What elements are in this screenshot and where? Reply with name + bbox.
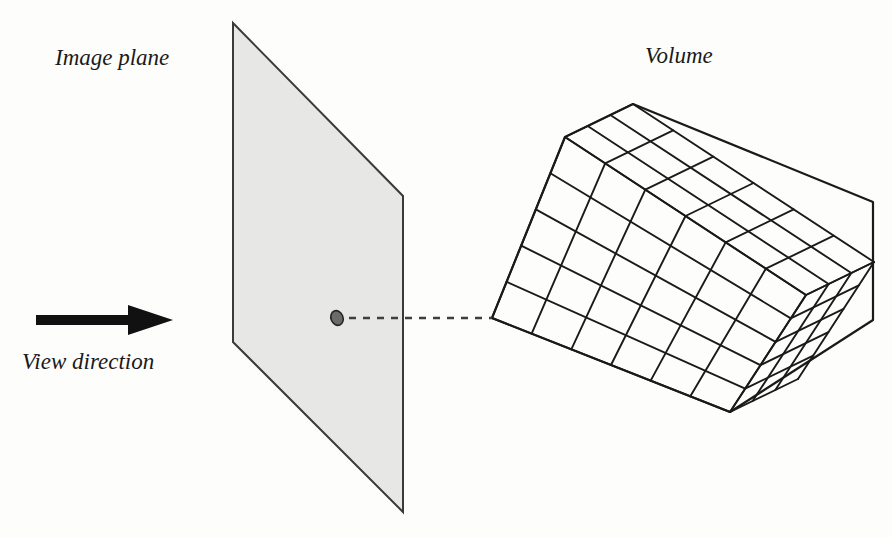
label-volume: Volume	[645, 43, 713, 68]
volume-outline	[492, 104, 873, 412]
image-plane-quad	[233, 23, 403, 512]
volume-top-col-line	[605, 130, 673, 163]
volume-front-row-line	[536, 209, 776, 341]
volume-top-col-line	[686, 183, 754, 216]
volume-front-col-line	[571, 190, 645, 350]
diagram-svg: Image plane Volume View direction	[0, 0, 892, 537]
arrow-head-icon	[128, 305, 173, 335]
volume-top-col-line	[766, 236, 834, 269]
figure-canvas: Image plane Volume View direction	[0, 0, 892, 537]
label-image-plane: Image plane	[54, 45, 169, 70]
volume-top-col-line	[726, 209, 794, 242]
volume-front-col-line	[532, 163, 606, 333]
view-direction-arrow	[36, 305, 173, 335]
volume-front-row-line	[550, 173, 790, 318]
volume-grid-box	[492, 104, 874, 412]
arrow-shaft-icon	[36, 315, 131, 325]
label-view-direction: View direction	[22, 349, 154, 374]
volume-top-col-line	[645, 157, 713, 190]
